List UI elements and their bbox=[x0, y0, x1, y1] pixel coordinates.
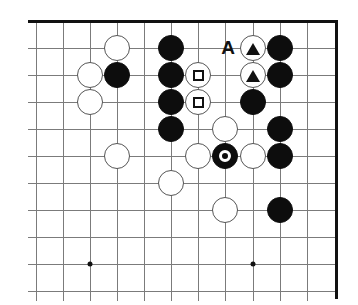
triangle-mark-icon bbox=[246, 70, 260, 82]
square-mark-icon bbox=[193, 97, 204, 108]
black-stone[interactable] bbox=[212, 143, 238, 169]
white-stone[interactable] bbox=[212, 197, 238, 223]
white-stone[interactable] bbox=[240, 143, 266, 169]
black-stone[interactable] bbox=[267, 35, 293, 61]
white-stone[interactable] bbox=[240, 35, 266, 61]
white-stone[interactable] bbox=[77, 62, 103, 88]
board-point-label-a: A bbox=[221, 38, 235, 57]
black-stone[interactable] bbox=[158, 89, 184, 115]
grid-line-vertical bbox=[63, 21, 64, 301]
white-stone[interactable] bbox=[77, 89, 103, 115]
black-stone[interactable] bbox=[104, 62, 130, 88]
white-stone[interactable] bbox=[185, 62, 211, 88]
triangle-mark-icon bbox=[246, 43, 260, 55]
grid-line-vertical bbox=[307, 21, 308, 301]
star-point-right-icon bbox=[251, 262, 256, 267]
black-stone[interactable] bbox=[158, 116, 184, 142]
white-stone[interactable] bbox=[158, 170, 184, 196]
white-stone[interactable] bbox=[104, 143, 130, 169]
go-board-diagram: A bbox=[0, 0, 358, 305]
white-stone[interactable] bbox=[185, 143, 211, 169]
black-stone[interactable] bbox=[267, 62, 293, 88]
white-stone[interactable] bbox=[212, 116, 238, 142]
black-stone[interactable] bbox=[158, 35, 184, 61]
black-stone[interactable] bbox=[267, 197, 293, 223]
white-stone[interactable] bbox=[104, 35, 130, 61]
star-point-left-icon bbox=[88, 262, 93, 267]
grid-line-horizontal bbox=[28, 291, 335, 292]
grid-line-vertical bbox=[36, 21, 37, 301]
black-stone[interactable] bbox=[267, 116, 293, 142]
grid-line-horizontal bbox=[28, 264, 335, 265]
white-stone[interactable] bbox=[240, 62, 266, 88]
board-edge-top bbox=[28, 20, 337, 23]
black-stone[interactable] bbox=[267, 143, 293, 169]
black-stone[interactable] bbox=[158, 62, 184, 88]
grid-line-horizontal bbox=[28, 237, 335, 238]
grid-line-vertical bbox=[144, 21, 145, 301]
square-mark-icon bbox=[193, 70, 204, 81]
board-edge-right bbox=[335, 20, 338, 299]
white-stone[interactable] bbox=[185, 89, 211, 115]
black-stone[interactable] bbox=[240, 89, 266, 115]
circle-mark-icon bbox=[219, 150, 231, 162]
